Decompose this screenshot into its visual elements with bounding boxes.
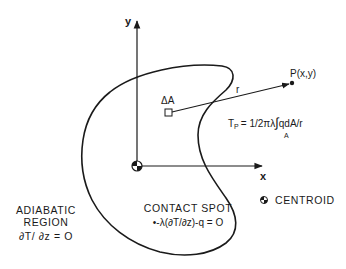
point-p-marker xyxy=(290,81,294,85)
centroid-legend-icon xyxy=(261,197,268,204)
contact-spot-line2: •-λ(∂T/∂z)-q = O xyxy=(153,217,224,228)
contact-spot-line1: CONTACT SPOT xyxy=(144,202,232,214)
adiabatic-line1: ADIABATIC xyxy=(16,204,76,216)
adiabatic-line2: REGION xyxy=(23,216,68,228)
formula-integral-sub: A xyxy=(284,132,289,139)
adiabatic-region-note: ADIABATIC REGION ∂T/ ∂z = O xyxy=(16,204,76,242)
formula-lhs-sub: P xyxy=(234,123,239,130)
y-axis-label: y xyxy=(125,15,132,27)
r-vector xyxy=(172,84,289,112)
legend-centroid: CENTROID xyxy=(261,194,335,206)
point-p-label: P(x,y) xyxy=(290,68,316,79)
area-element-icon xyxy=(165,109,172,116)
formula-rhs-pre: = 1/2πλ xyxy=(241,118,275,129)
svg-text:TP= 1/2πλ∫qdA/r: TP= 1/2πλ∫qdA/r xyxy=(228,115,303,130)
centroid-icon xyxy=(132,161,142,171)
centroid-legend-label: CENTROID xyxy=(275,194,335,206)
contact-spot-note: CONTACT SPOT •-λ(∂T/∂z)-q = O xyxy=(144,202,232,228)
contact-spot-diagram: y x ΔA r P(x,y) TP= 1/2πλ∫qdA/r A ADIABA… xyxy=(0,0,346,269)
formula-rhs-post: qdA/r xyxy=(279,118,304,129)
area-element-label: ΔA xyxy=(161,95,175,106)
r-label: r xyxy=(236,84,240,95)
x-axis-label: x xyxy=(260,170,267,182)
adiabatic-line3: ∂T/ ∂z = O xyxy=(19,230,73,242)
temperature-formula: TP= 1/2πλ∫qdA/r A xyxy=(228,115,303,139)
